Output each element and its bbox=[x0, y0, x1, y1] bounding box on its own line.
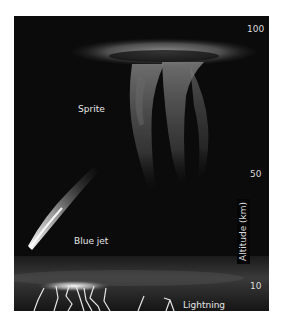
altitude-tick-100: 100 bbox=[247, 25, 264, 34]
lightning-label: Lightning bbox=[183, 301, 225, 310]
blue-jet-label: Blue jet bbox=[74, 237, 108, 246]
altitude-axis-title: Altitude (km) bbox=[237, 199, 250, 264]
sprite-tendrils bbox=[130, 62, 209, 191]
atmospheric-phenomena-figure: Sprite Blue jet Lightning 100 50 10 Alti… bbox=[14, 16, 269, 311]
scene-graphic bbox=[14, 16, 269, 311]
altitude-tick-50: 50 bbox=[250, 170, 261, 179]
altitude-tick-10: 10 bbox=[250, 282, 261, 291]
sprite-label: Sprite bbox=[78, 105, 105, 114]
